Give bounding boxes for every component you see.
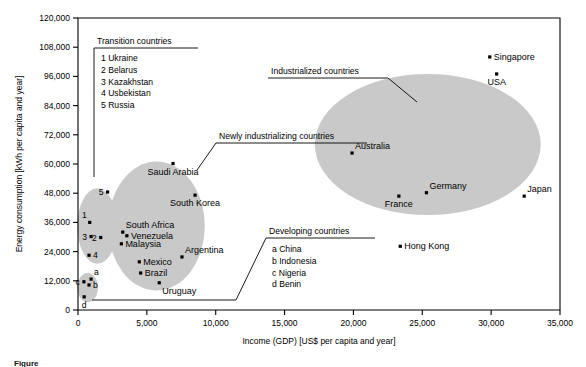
point-label-benin: d xyxy=(82,300,87,310)
x-tick-label: 25,000 xyxy=(409,318,435,328)
point-label-kazakhstan: 3 xyxy=(82,232,87,242)
data-point-argentina xyxy=(180,255,183,258)
x-tick-label: 30,000 xyxy=(478,318,504,328)
data-point-ukraine xyxy=(88,221,91,224)
y-axis-title: Energy consumption [kWh per capita and y… xyxy=(14,76,24,253)
data-point-hong-kong xyxy=(399,245,402,248)
data-point-uruguay xyxy=(158,281,161,284)
data-point-russia xyxy=(106,190,109,193)
y-tick-label: 12,000 xyxy=(44,276,70,286)
x-tick-label: 20,000 xyxy=(340,318,366,328)
annotation-transition: Transition countries1 Ukraine2 Belarus3 … xyxy=(94,36,198,177)
data-point-south-africa xyxy=(121,231,124,234)
annotation-item-transition: 4 Usbekistan xyxy=(101,88,151,98)
annotation-item-developing: b Indonesia xyxy=(272,256,317,266)
data-point-nigeria xyxy=(82,280,85,283)
point-label-indonesia: b xyxy=(93,280,98,290)
data-point-benin xyxy=(83,295,86,298)
point-label-france: France xyxy=(385,199,413,209)
point-label-hong-kong: Hong Kong xyxy=(404,241,449,251)
annotation-title-transition: Transition countries xyxy=(97,36,172,46)
data-point-belarus xyxy=(99,236,102,239)
data-point-mexico xyxy=(138,260,141,263)
point-label-argentina: Argentina xyxy=(185,245,224,255)
data-point-singapore xyxy=(488,55,491,58)
point-label-brazil: Brazil xyxy=(145,268,168,278)
data-point-japan xyxy=(523,195,526,198)
annotation-item-developing: a China xyxy=(272,244,302,254)
y-tick-label: 0 xyxy=(65,305,70,315)
point-label-ukraine: 1 xyxy=(82,210,87,220)
point-label-japan: Japan xyxy=(527,184,552,194)
y-tick-label: 36,000 xyxy=(44,217,70,227)
point-label-germany: Germany xyxy=(429,181,467,191)
point-label-malaysia: Malaysia xyxy=(125,239,161,249)
annotation-item-transition: 2 Belarus xyxy=(101,65,137,75)
y-tick-label: 96,000 xyxy=(44,71,70,81)
annotation-item-transition: 5 Russia xyxy=(101,100,135,110)
point-label-russia: 5 xyxy=(99,187,104,197)
y-tick-label: 84,000 xyxy=(44,101,70,111)
point-label-usbekistan: 4 xyxy=(93,250,98,260)
annotation-title-industrialized: Industrialized countries xyxy=(271,66,359,76)
x-tick-label: 10,000 xyxy=(203,318,229,328)
point-label-belarus: 2 xyxy=(92,233,97,243)
x-tick-label: 5,000 xyxy=(136,318,158,328)
point-label-south-korea: South Korea xyxy=(170,198,220,208)
x-axis-ticks: 05,00010,00015,00020,00025,00030,00035,0… xyxy=(76,310,574,328)
point-label-nigeria: c xyxy=(76,277,81,287)
data-point-germany xyxy=(425,191,428,194)
annotation-item-developing: d Benin xyxy=(272,279,301,289)
annotation-title-developing: Developing countries xyxy=(269,226,349,236)
point-label-saudi-arabia: Saudi Arabia xyxy=(147,167,198,177)
figure-container: 05,00010,00015,00020,00025,00030,00035,0… xyxy=(0,0,586,367)
annotation-item-transition: 1 Ukraine xyxy=(101,53,138,63)
scatter-chart: 05,00010,00015,00020,00025,00030,00035,0… xyxy=(0,0,586,367)
x-tick-label: 15,000 xyxy=(272,318,298,328)
y-tick-label: 48,000 xyxy=(44,188,70,198)
data-point-saudi-arabia xyxy=(171,162,174,165)
data-point-south-korea xyxy=(193,194,196,197)
point-label-china: a xyxy=(94,267,99,277)
annotation-title-newly: Newly industrializing countries xyxy=(219,131,334,141)
point-label-mexico: Mexico xyxy=(143,257,172,267)
data-point-usa xyxy=(495,72,498,75)
data-point-indonesia xyxy=(87,283,90,286)
data-point-brazil xyxy=(139,271,142,274)
y-axis-ticks: 012,00024,00036,00048,00060,00072,00084,… xyxy=(39,13,78,315)
x-tick-label: 0 xyxy=(76,318,81,328)
y-tick-label: 108,000 xyxy=(39,42,70,52)
data-point-malaysia xyxy=(120,242,123,245)
annotation-leader-newly xyxy=(197,143,216,170)
x-tick-label: 35,000 xyxy=(547,318,573,328)
data-point-france xyxy=(397,195,400,198)
annotation-item-developing: c Nigeria xyxy=(272,268,306,278)
y-tick-label: 120,000 xyxy=(39,13,70,23)
point-label-south-africa: South Africa xyxy=(126,220,175,230)
point-label-usa: USA xyxy=(487,77,506,87)
figure-caption: Figure xyxy=(14,359,39,367)
data-point-venezuela xyxy=(125,234,128,237)
x-axis-title: Income (GDP) [US$ per capita and year] xyxy=(242,336,395,346)
data-point-usbekistan xyxy=(87,254,90,257)
point-label-uruguay: Uruguay xyxy=(162,286,197,296)
y-tick-label: 60,000 xyxy=(44,159,70,169)
data-point-australia xyxy=(350,151,353,154)
y-tick-label: 72,000 xyxy=(44,130,70,140)
point-label-singapore: Singapore xyxy=(494,52,535,62)
y-tick-label: 24,000 xyxy=(44,247,70,257)
annotation-item-transition: 3 Kazakhstan xyxy=(101,77,153,87)
